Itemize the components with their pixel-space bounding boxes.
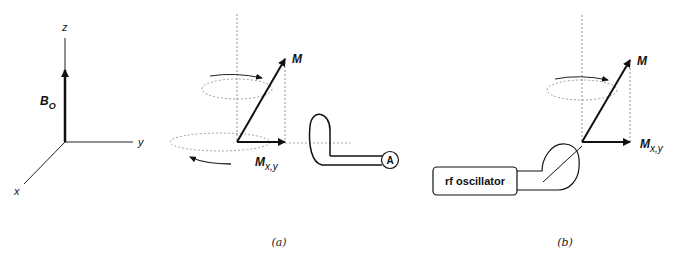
b0-subscript: O — [49, 101, 56, 111]
caption-b: (b) — [557, 236, 573, 249]
detector-label: A — [386, 155, 393, 166]
b0-field-label: BO — [40, 94, 56, 111]
y-axis-label: y — [137, 136, 145, 148]
magnetization-vector — [237, 59, 285, 142]
z-axis-label: z — [61, 21, 68, 33]
receiver-coil — [310, 114, 383, 165]
x-axis-label: x — [13, 185, 20, 197]
m-label: M — [637, 54, 648, 68]
caption-a: (a) — [271, 236, 286, 249]
panel-a: M Mx,y A (a) — [170, 14, 399, 249]
rotation-arrow — [555, 77, 608, 80]
lower-rotation-arrow — [190, 157, 231, 164]
m-label: M — [292, 52, 303, 66]
nmr-diagram: z y x BO M Mx,y A (a) M — [0, 0, 682, 265]
x-axis — [24, 142, 65, 184]
panel-b: M Mx,y rf oscillator (b) — [433, 15, 664, 249]
axes-panel: z y x BO — [13, 21, 145, 197]
magnetization-vector — [582, 60, 630, 142]
mxy-subscript: x,y — [649, 143, 664, 154]
transmitter-coil — [517, 144, 579, 190]
rf-oscillator-label: rf oscillator — [445, 175, 506, 187]
mxy-subscript: x,y — [264, 161, 279, 172]
mxy-label: Mx,y — [640, 137, 664, 154]
upper-rotation-arrow — [210, 74, 262, 78]
mxy-label: Mx,y — [255, 155, 279, 172]
